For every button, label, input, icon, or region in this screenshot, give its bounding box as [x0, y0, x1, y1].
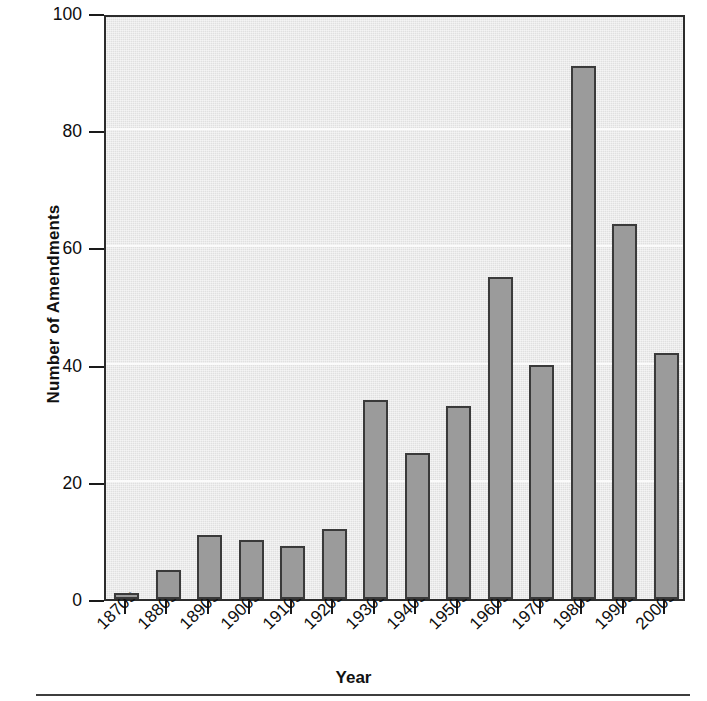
bar: [322, 529, 347, 599]
y-axis-tick-mark: [89, 14, 104, 16]
y-axis-tick-label: 80: [34, 123, 82, 141]
y-axis-tick-mark: [89, 483, 104, 485]
y-axis-tick-label: 60: [34, 240, 82, 258]
bottom-divider: [36, 694, 690, 696]
gridline: [106, 363, 683, 365]
bar: [156, 570, 181, 599]
y-axis-tick-label: 100: [34, 6, 82, 24]
bar: [446, 406, 471, 599]
bar: [405, 453, 430, 600]
plot-area: [104, 15, 685, 601]
y-axis-tick-label: 0: [34, 592, 82, 610]
bar-chart-figure: Number of Amendments 020406080100 1870s1…: [0, 0, 707, 701]
bar: [612, 224, 637, 599]
y-axis-tick-mark: [89, 248, 104, 250]
y-axis-tick-label: 20: [34, 475, 82, 493]
y-axis-tick-mark: [89, 131, 104, 133]
bar: [529, 365, 554, 599]
bar: [239, 540, 264, 599]
x-axis-tick-labels: 1870s1880s1890s1900s1910s1920s1930s1940s…: [104, 616, 685, 676]
gridline: [106, 128, 683, 130]
gridline: [106, 480, 683, 482]
bar: [197, 535, 222, 599]
y-axis-tick-labels: 020406080100: [34, 0, 82, 701]
x-axis-title: Year: [0, 668, 707, 688]
bar: [654, 353, 679, 599]
y-axis-tick-mark: [89, 366, 104, 368]
y-axis-tick-label: 40: [34, 358, 82, 376]
bar: [571, 66, 596, 599]
gridline: [106, 245, 683, 247]
bar: [280, 546, 305, 599]
bar: [114, 593, 139, 599]
bar: [363, 400, 388, 599]
bar: [488, 277, 513, 599]
y-axis-tick-mark: [89, 600, 104, 602]
